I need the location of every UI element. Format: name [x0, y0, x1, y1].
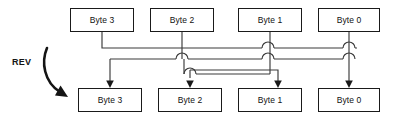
source-box-byte-2[interactable]: Byte 2: [150, 8, 214, 32]
arrowhead-dest-byte1: [274, 81, 282, 89]
arrowhead-dest-byte0: [345, 81, 353, 89]
wire-hop-b3-at-268: [262, 42, 274, 48]
dest-box-byte-1[interactable]: Byte 1: [238, 88, 302, 112]
dest-box-byte-1-label: Byte 1: [258, 95, 283, 105]
wire-hop-b2-at-268: [262, 53, 274, 59]
source-box-byte-1-label: Byte 1: [258, 15, 283, 25]
source-box-byte-2-label: Byte 2: [170, 15, 195, 25]
dest-box-byte-0-label: Byte 0: [337, 95, 362, 105]
dest-box-byte-2-label: Byte 2: [178, 95, 203, 105]
dest-box-byte-0[interactable]: Byte 0: [318, 88, 380, 112]
rev-curved-arrow: [44, 48, 68, 97]
source-box-byte-3-label: Byte 3: [90, 15, 115, 25]
rev-byte-reversal-diagram: Byte 3 Byte 2 Byte 1 Byte 0 Byte 3 Byte …: [0, 0, 393, 119]
wire-lower-rail: [190, 70, 278, 84]
rev-label: REV: [12, 57, 31, 67]
source-box-byte-3[interactable]: Byte 3: [70, 8, 134, 32]
arrowhead-dest-byte3: [106, 81, 114, 89]
dest-box-byte-3[interactable]: Byte 3: [78, 88, 142, 112]
source-box-byte-0-label: Byte 0: [337, 15, 362, 25]
dest-box-byte-3-label: Byte 3: [98, 95, 123, 105]
source-box-byte-0[interactable]: Byte 0: [318, 8, 380, 32]
source-box-byte-1[interactable]: Byte 1: [238, 8, 302, 32]
dest-box-byte-2[interactable]: Byte 2: [158, 88, 222, 112]
arrowhead-dest-byte2: [186, 81, 194, 89]
